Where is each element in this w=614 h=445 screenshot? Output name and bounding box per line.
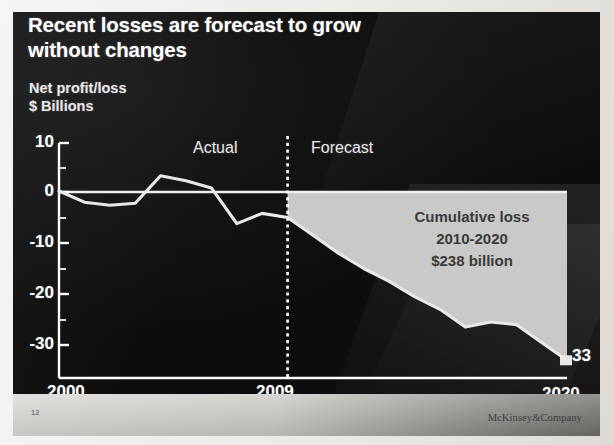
y-tick-label-0: 0	[10, 181, 54, 201]
callout-line-1: Cumulative loss	[381, 206, 563, 228]
slide-footer: 12 McKinsey&Company	[13, 394, 600, 436]
endpoint-marker	[560, 355, 572, 365]
callout-line-3: $238 billion	[381, 250, 563, 272]
cumulative-loss-callout: Cumulative loss 2010-2020 $238 billion	[381, 206, 563, 272]
band-label-forecast: Forecast	[311, 139, 373, 157]
y-tick-label-minus-10: -10	[10, 232, 54, 252]
callout-line-2: 2010-2020	[381, 228, 563, 250]
y-tick-label-minus-20: -20	[10, 283, 54, 303]
band-label-actual: Actual	[193, 139, 237, 157]
chart-svg	[13, 12, 600, 394]
series-actual-line	[59, 176, 288, 224]
y-tick-label-10: 10	[10, 132, 54, 152]
slide-number: 12	[31, 408, 39, 417]
y-tick-label-minus-30: -30	[10, 334, 54, 354]
endpoint-value-label: 33	[572, 346, 591, 366]
brand-wordmark: McKinsey&Company	[488, 412, 582, 423]
slide-root: Recent losses are forecast to grow witho…	[0, 0, 614, 445]
y-axis-major-ticks	[59, 143, 69, 345]
chart-plot-area: 10 0 -10 -20 -30 2000 2009 2020 Actual F…	[13, 12, 600, 394]
